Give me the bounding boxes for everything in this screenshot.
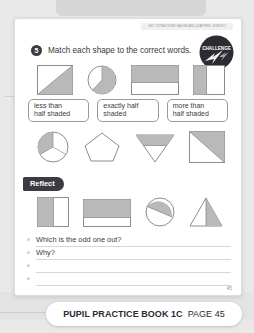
answer-line[interactable] bbox=[25, 272, 231, 285]
square-left-strip-shaded bbox=[193, 65, 225, 95]
answer-rule[interactable] bbox=[36, 272, 231, 286]
bullet-dot-icon bbox=[27, 264, 30, 267]
question-row: 5 Match each shape to the correct words. bbox=[31, 45, 191, 56]
footer-page-label: PAGE 45 bbox=[188, 309, 225, 319]
circle-diagonal-segment-shaded bbox=[145, 197, 175, 227]
footer-book-title: PUPIL PRACTICE BOOK 1C bbox=[63, 309, 182, 319]
word-box-line-1: exactly half bbox=[103, 102, 153, 110]
triangle-right-half-shaded bbox=[189, 197, 223, 227]
rectangle-upper-band-shaded bbox=[83, 199, 131, 227]
worksheet-page: UNIT 13 FRACTIONS: HALVES AND QUARTERS, … bbox=[14, 18, 242, 296]
page-edge-marker bbox=[4, 96, 14, 97]
shape-row-middle bbox=[37, 131, 227, 163]
word-box-line-1: more than bbox=[173, 102, 223, 110]
square-large-triangle-shaded bbox=[189, 131, 225, 163]
answer-rule[interactable] bbox=[36, 259, 231, 273]
word-box-more-than-half[interactable]: more than half shaded bbox=[167, 99, 228, 122]
square-diagonal-half-shaded bbox=[37, 65, 73, 95]
footer-divider bbox=[0, 312, 48, 313]
bullet-dot-icon bbox=[27, 251, 30, 254]
answer-prompt: Which is the odd one out? bbox=[36, 235, 121, 244]
answer-rule[interactable]: Why? bbox=[36, 246, 231, 260]
answer-line[interactable] bbox=[25, 259, 231, 272]
bullet-dot-icon bbox=[27, 277, 30, 280]
answer-line[interactable]: Why? bbox=[25, 246, 231, 259]
word-box-line-1: less than bbox=[34, 102, 84, 110]
running-header: UNIT 13 FRACTIONS: HALVES AND QUARTERS, … bbox=[141, 23, 233, 30]
triangle-down-band-shaded bbox=[135, 133, 175, 163]
bullet-dot-icon bbox=[27, 238, 30, 241]
answer-line[interactable]: Which is the odd one out? bbox=[25, 233, 231, 246]
word-box-line-2: half shaded bbox=[173, 110, 223, 118]
question-text: Match each shape to the correct words. bbox=[48, 46, 191, 55]
page-backdrop-top bbox=[56, 0, 206, 16]
pentagon-unshaded bbox=[83, 131, 121, 163]
running-header-text: UNIT 13 FRACTIONS: HALVES AND QUARTERS, … bbox=[148, 25, 226, 29]
circle-more-than-half-shaded bbox=[87, 65, 117, 95]
word-box-line-2: half shaded bbox=[34, 110, 84, 118]
question-number-badge: 5 bbox=[31, 45, 42, 56]
word-box-less-than-half[interactable]: less than half shaded bbox=[28, 99, 89, 122]
challenge-badge-label: CHALLENGE bbox=[202, 46, 231, 51]
word-box-group: less than half shaded exactly half shade… bbox=[28, 99, 228, 122]
word-box-line-2: shaded bbox=[103, 110, 153, 118]
page-number: 45 bbox=[226, 285, 232, 291]
rectangle-top-band-shaded bbox=[131, 65, 179, 95]
answer-rule[interactable]: Which is the odd one out? bbox=[36, 233, 231, 247]
square-left-half-shaded bbox=[37, 197, 69, 227]
shape-row-bottom bbox=[37, 197, 227, 227]
shape-row-top bbox=[37, 65, 227, 95]
word-box-exactly-half[interactable]: exactly half shaded bbox=[97, 99, 158, 122]
answer-block: Which is the odd one out? Why? bbox=[25, 233, 231, 285]
reflect-banner: Reflect bbox=[23, 177, 64, 191]
answer-prompt: Why? bbox=[36, 248, 55, 257]
circle-thirds-one-shaded bbox=[37, 131, 69, 163]
footer-caption: PUPIL PRACTICE BOOK 1C PAGE 45 bbox=[46, 302, 242, 326]
